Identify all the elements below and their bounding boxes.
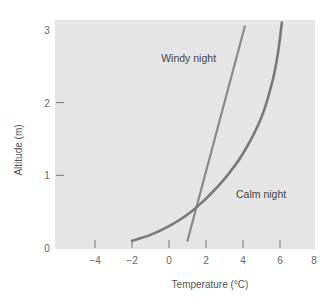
chart-svg: 0123 −4−202468 Windy night Calm night Te… bbox=[0, 0, 330, 300]
x-tick-label: 0 bbox=[166, 255, 172, 266]
x-tick-label: 4 bbox=[240, 255, 246, 266]
y-tick-label: 2 bbox=[44, 98, 50, 109]
y-tick-label: 0 bbox=[44, 243, 50, 254]
annotation-calm-night: Calm night bbox=[236, 188, 286, 200]
y-tick-label: 1 bbox=[44, 170, 50, 181]
y-tick-label: 3 bbox=[44, 25, 50, 36]
annotation-windy-night: Windy night bbox=[161, 52, 216, 64]
x-tick-label: 8 bbox=[311, 255, 317, 266]
x-tick-label: 2 bbox=[203, 255, 209, 266]
x-tick-label: −2 bbox=[126, 255, 138, 266]
y-axis-title: Altitude (m) bbox=[13, 124, 24, 175]
x-tick-label: −4 bbox=[89, 255, 101, 266]
x-tick-label: 6 bbox=[277, 255, 283, 266]
x-axis-title: Temperature (°C) bbox=[172, 279, 249, 290]
